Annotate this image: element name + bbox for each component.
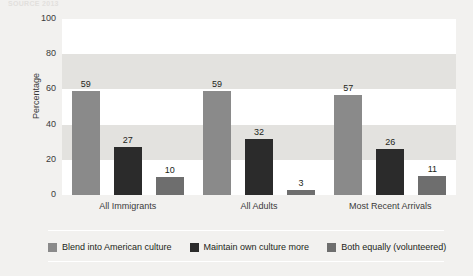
legend-label: Both equally (volunteered) xyxy=(341,242,446,252)
bar: 10 xyxy=(156,177,184,195)
x-tick-label: Most Recent Arrivals xyxy=(325,201,456,211)
chart-card: Percentage 100806040200 5927105932357261… xyxy=(14,13,460,264)
y-tick-label: 20 xyxy=(30,154,56,164)
legend-rule-top xyxy=(48,230,444,231)
legend-label: Maintain own culture more xyxy=(204,242,310,252)
bar-group: 572611 xyxy=(334,19,446,195)
bar-value-label: 11 xyxy=(428,164,437,174)
legend-item[interactable]: Maintain own culture more xyxy=(190,242,310,252)
legend-label: Blend into American culture xyxy=(62,242,172,252)
y-tick-label: 40 xyxy=(30,119,56,129)
bar-value-label: 10 xyxy=(165,165,175,175)
bar-value-label: 3 xyxy=(298,178,303,188)
bar-value-label: 59 xyxy=(81,79,91,89)
bar: 11 xyxy=(418,176,446,195)
bar: 26 xyxy=(376,149,404,195)
bar: 59 xyxy=(72,91,100,195)
bar-series-container: 59271059323572611 xyxy=(62,19,456,195)
y-tick-label: 0 xyxy=(30,189,56,199)
bar-value-label: 57 xyxy=(343,83,353,93)
plot-area-wrapper: Percentage 100806040200 5927105932357261… xyxy=(14,13,460,209)
legend-swatch-icon xyxy=(190,243,199,252)
chart-legend: Blend into American cultureMaintain own … xyxy=(48,237,448,257)
bar-value-label: 26 xyxy=(385,137,395,147)
x-tick-label: All Adults xyxy=(193,201,324,211)
y-tick-label: 100 xyxy=(30,13,56,23)
legend-item[interactable]: Blend into American culture xyxy=(48,242,172,252)
bar: 3 xyxy=(287,190,315,195)
y-tick-label: 60 xyxy=(30,83,56,93)
bar-group: 59323 xyxy=(203,19,315,195)
bar: 59 xyxy=(203,91,231,195)
bar: 57 xyxy=(334,95,362,195)
y-tick-label: 80 xyxy=(30,48,56,58)
bar: 32 xyxy=(245,139,273,195)
plot-area: 59271059323572611 xyxy=(62,19,456,195)
y-axis-tick-labels: 100806040200 xyxy=(22,13,56,195)
bar: 27 xyxy=(114,147,142,195)
bar-value-label: 32 xyxy=(254,127,264,137)
legend-item[interactable]: Both equally (volunteered) xyxy=(327,242,446,252)
x-tick-label: All Immigrants xyxy=(62,201,193,211)
figure-container: SOURCE 2013 Percentage 100806040200 5927… xyxy=(0,0,473,276)
bar-group: 592710 xyxy=(72,19,184,195)
bar-value-label: 27 xyxy=(123,135,133,145)
legend-swatch-icon xyxy=(327,243,336,252)
bar-value-label: 59 xyxy=(212,79,222,89)
legend-swatch-icon xyxy=(48,243,57,252)
legend-rule-bottom xyxy=(48,261,444,262)
cropped-header-text: SOURCE 2013 xyxy=(8,0,128,8)
